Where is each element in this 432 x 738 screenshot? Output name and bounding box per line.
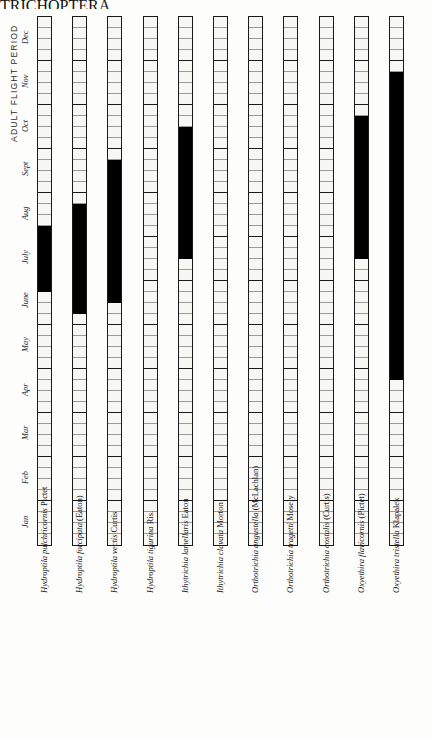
week-cell bbox=[73, 413, 86, 424]
flight-period-bar[interactable] bbox=[72, 16, 87, 546]
week-cell bbox=[355, 138, 368, 149]
week-cell bbox=[214, 402, 227, 413]
flight-period-bar[interactable] bbox=[213, 16, 228, 546]
week-cell bbox=[320, 303, 333, 314]
week-cell bbox=[179, 226, 192, 237]
week-cell bbox=[390, 50, 403, 61]
week-cell bbox=[320, 39, 333, 50]
week-cell bbox=[390, 380, 403, 391]
flight-period-bar[interactable] bbox=[37, 16, 52, 546]
week-cell bbox=[320, 226, 333, 237]
week-cell bbox=[108, 50, 121, 61]
week-cell bbox=[320, 94, 333, 105]
week-cell bbox=[355, 446, 368, 457]
month-label-dec: Dec bbox=[20, 4, 31, 44]
month-label-may: May bbox=[20, 312, 31, 352]
week-cell bbox=[73, 160, 86, 171]
week-cell bbox=[355, 28, 368, 39]
week-cell bbox=[390, 193, 403, 204]
week-cell bbox=[355, 17, 368, 28]
species-name-label: Orthotrichia angustella (McLachlan) bbox=[249, 466, 262, 593]
week-cell bbox=[144, 61, 157, 72]
week-cell bbox=[284, 402, 297, 413]
flight-period-bar[interactable] bbox=[143, 16, 158, 546]
week-cell bbox=[108, 204, 121, 215]
week-cell bbox=[73, 292, 86, 303]
week-cell bbox=[249, 215, 262, 226]
week-cell bbox=[38, 138, 51, 149]
flight-period-bar[interactable] bbox=[283, 16, 298, 546]
week-cell bbox=[355, 83, 368, 94]
week-cell bbox=[108, 182, 121, 193]
week-cell bbox=[38, 325, 51, 336]
week-cell bbox=[284, 193, 297, 204]
week-cell bbox=[179, 204, 192, 215]
week-cell bbox=[390, 248, 403, 259]
week-cell bbox=[355, 105, 368, 116]
week-cell bbox=[108, 237, 121, 248]
week-cell bbox=[355, 204, 368, 215]
week-cell bbox=[73, 237, 86, 248]
week-cell bbox=[73, 336, 86, 347]
week-cell bbox=[73, 358, 86, 369]
week-cell bbox=[73, 402, 86, 413]
week-cell bbox=[73, 314, 86, 325]
week-cell bbox=[355, 193, 368, 204]
week-cell bbox=[179, 292, 192, 303]
week-cell bbox=[144, 402, 157, 413]
week-cell bbox=[214, 259, 227, 270]
week-cell bbox=[144, 424, 157, 435]
flight-period-bar[interactable] bbox=[354, 16, 369, 546]
species-column bbox=[283, 16, 298, 546]
week-cell bbox=[249, 226, 262, 237]
week-cell bbox=[73, 138, 86, 149]
week-cell bbox=[73, 182, 86, 193]
flight-period-bar[interactable] bbox=[107, 16, 122, 546]
week-cell bbox=[144, 160, 157, 171]
week-cell bbox=[144, 72, 157, 83]
week-cell bbox=[108, 435, 121, 446]
flight-period-bar[interactable] bbox=[178, 16, 193, 546]
species-name-label: Oxyethira tristella Klapalek bbox=[390, 498, 403, 593]
week-cell bbox=[38, 39, 51, 50]
week-cell bbox=[73, 28, 86, 39]
week-cell bbox=[355, 149, 368, 160]
week-cell bbox=[38, 435, 51, 446]
week-cell bbox=[179, 237, 192, 248]
week-cell bbox=[108, 259, 121, 270]
week-cell bbox=[73, 171, 86, 182]
week-cell bbox=[144, 105, 157, 116]
week-cell bbox=[355, 468, 368, 479]
week-cell bbox=[38, 116, 51, 127]
week-cell bbox=[284, 50, 297, 61]
week-cell bbox=[214, 435, 227, 446]
week-cell bbox=[320, 358, 333, 369]
week-cell bbox=[355, 259, 368, 270]
flight-period-bar[interactable] bbox=[319, 16, 334, 546]
week-cell bbox=[73, 83, 86, 94]
week-cell bbox=[249, 391, 262, 402]
week-cell bbox=[249, 358, 262, 369]
week-cell bbox=[390, 347, 403, 358]
week-cell bbox=[144, 391, 157, 402]
week-cell bbox=[144, 292, 157, 303]
week-cell bbox=[284, 292, 297, 303]
week-cell bbox=[320, 435, 333, 446]
week-cell bbox=[144, 248, 157, 259]
month-label-aug: Aug bbox=[20, 180, 31, 220]
week-cell bbox=[179, 259, 192, 270]
week-cell bbox=[390, 468, 403, 479]
week-cell bbox=[38, 270, 51, 281]
week-cell bbox=[214, 127, 227, 138]
week-cell bbox=[355, 270, 368, 281]
week-cell bbox=[179, 314, 192, 325]
flight-period-bar[interactable] bbox=[389, 16, 404, 546]
week-cell bbox=[144, 50, 157, 61]
week-cell bbox=[108, 270, 121, 281]
week-cell bbox=[38, 281, 51, 292]
week-cell bbox=[284, 270, 297, 281]
week-cell bbox=[249, 281, 262, 292]
week-cell bbox=[320, 182, 333, 193]
week-cell bbox=[179, 336, 192, 347]
week-cell bbox=[73, 61, 86, 72]
